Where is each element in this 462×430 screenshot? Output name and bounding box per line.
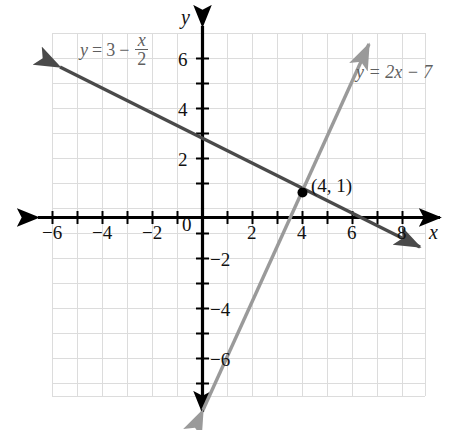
x-tick-label-6: 6 [347,222,357,244]
y-tick-label-4: 4 [178,99,188,121]
equation-line1-denominator: 2 [135,50,148,69]
coordinate-graph: −6 −4 −2 2 4 6 8 0 6 4 2 −2 −4 −6 x y y=… [0,0,462,430]
intersection-point-dot [298,188,308,198]
origin-label: 0 [182,214,192,236]
x-tick-label-4: 4 [297,222,307,244]
equation-line1-minus: − [119,40,129,60]
equation-label-line1: y=3−x2 [80,33,148,70]
x-tick-label-8: 8 [397,222,407,244]
x-tick-label-neg2: −2 [142,222,162,244]
x-tick-label-neg4: −4 [92,222,112,244]
y-tick-label-6: 6 [178,49,188,71]
x-axis-label: x [429,221,438,244]
y-tick-label-neg6: −6 [210,349,230,371]
x-tick-label-neg6: −6 [42,222,62,244]
equation-line1-equals: = [92,40,102,60]
equation-line1-constant: 3 [106,40,115,60]
y-tick-label-2: 2 [178,149,188,171]
y-axis-label: y [181,6,190,29]
line-y-equals-3-minus-x-over-2 [60,67,420,247]
equation-label-line2: y = 2x − 7 [356,62,432,83]
y-tick-label-neg4: −4 [210,299,230,321]
grid-lines [52,33,426,397]
equation-line1-lhs: y [80,40,88,60]
y-tick-label-neg2: −2 [210,249,230,271]
equation-line1-fraction: x2 [135,32,148,69]
x-tick-label-2: 2 [247,222,257,244]
equation-line1-numerator: x [135,32,148,50]
intersection-point-label: (4, 1) [311,175,352,197]
